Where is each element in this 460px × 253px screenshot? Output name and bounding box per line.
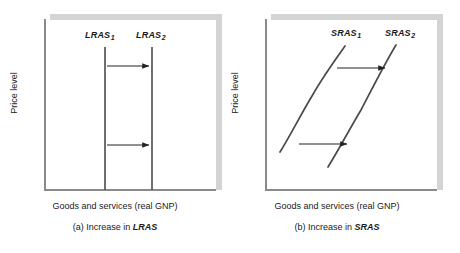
x-axis-label: Goods and services (real GNP) [0, 201, 230, 211]
caption-term: SRAS [355, 222, 380, 232]
panel-a-plot [0, 0, 230, 253]
y-axis-label: Price level [230, 53, 240, 133]
y-axis-label: Price level [9, 53, 19, 133]
curve-label-sras-2: SRAS2 [385, 28, 415, 38]
caption-prefix: (a) Increase in [73, 222, 133, 232]
panel-caption: (b) Increase in SRAS [222, 222, 452, 232]
x-axis-label: Goods and services (real GNP) [222, 201, 452, 211]
curve-label-sras-1: SRAS1 [331, 28, 361, 38]
panel-sras: SRAS1 SRAS2 Price level Goods and servic… [230, 0, 460, 253]
panel-lras: LRAS1 LRAS2 Price level Goods and servic… [0, 0, 230, 253]
caption-prefix: (b) Increase in [294, 222, 354, 232]
curve-label-lras-1: LRAS1 [85, 30, 114, 40]
curve-label-lras-2: LRAS2 [136, 30, 165, 40]
panel-caption: (a) Increase in LRAS [0, 222, 230, 232]
caption-term: LRAS [133, 222, 158, 232]
curve-sras-1 [280, 46, 345, 152]
curve-sras-2 [328, 45, 396, 167]
figure-container: LRAS1 LRAS2 Price level Goods and servic… [0, 0, 460, 253]
